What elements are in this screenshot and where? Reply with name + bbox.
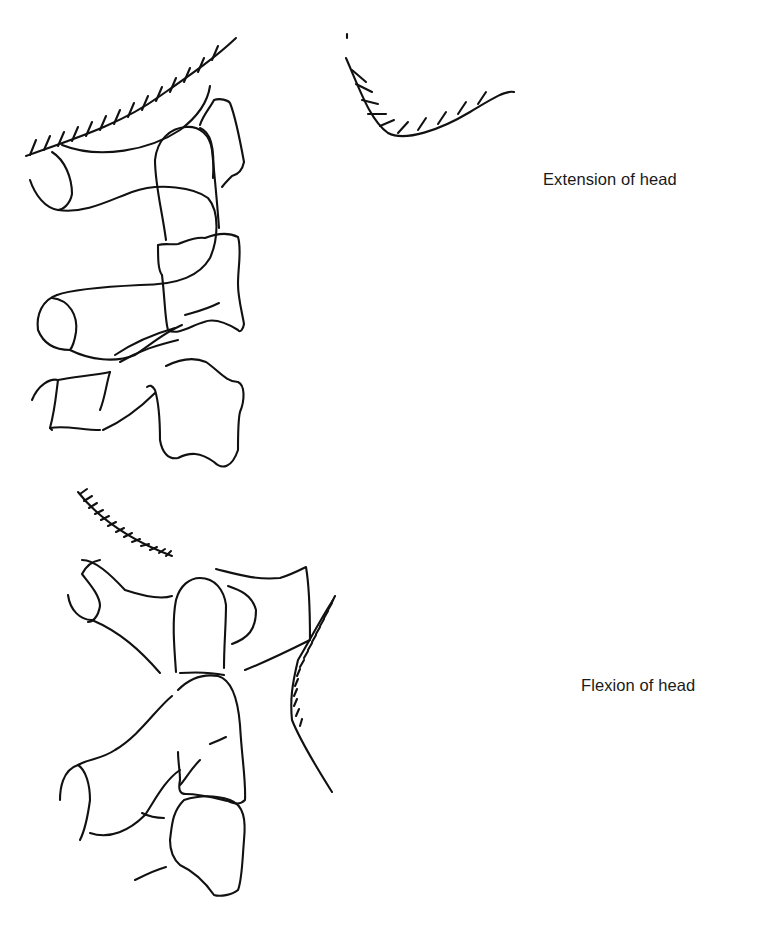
occiput-hatching-left: [30, 46, 218, 155]
flexion-drawing: [60, 489, 335, 896]
cervical-spine-figure: Extension of head Flexion of head: [0, 0, 766, 950]
neck-hatching-flexion: [294, 596, 335, 726]
extension-label: Extension of head: [543, 170, 677, 189]
flexion-label: Flexion of head: [581, 676, 695, 695]
dens-flexion: [174, 578, 226, 672]
occiput-contour-flexion: [78, 492, 172, 556]
occiput-hatching-flexion: [80, 489, 171, 556]
dens-extension: [155, 127, 219, 240]
occiput-contour-right: [346, 58, 514, 136]
neck-contour-flexion: [291, 600, 333, 792]
occiput-contour-left: [26, 38, 236, 156]
extension-drawing: [26, 34, 514, 466]
occiput-hatching-right: [352, 70, 486, 133]
